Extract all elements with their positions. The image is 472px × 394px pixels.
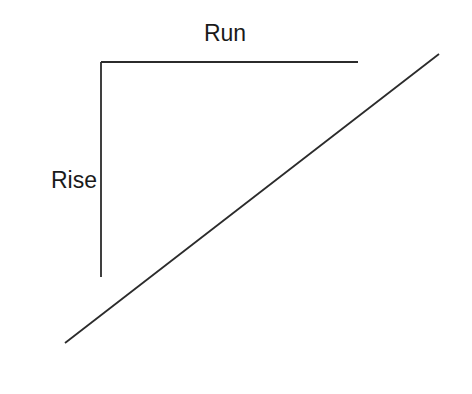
slope-line bbox=[65, 54, 439, 343]
rise-label: Rise bbox=[51, 167, 97, 193]
run-label: Run bbox=[204, 20, 246, 46]
rise-run-diagram: Run Rise bbox=[0, 0, 472, 394]
